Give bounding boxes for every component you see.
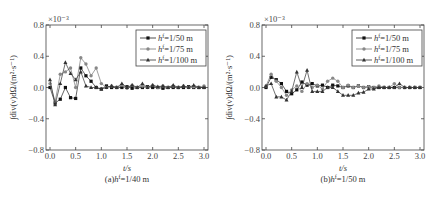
- y-tick-label: −0.8: [245, 145, 260, 155]
- legend-entry: hf=1/50 m: [374, 33, 409, 43]
- x-tick-label: 0.5: [70, 151, 81, 161]
- legend-entry: hf=1/100 m: [158, 55, 198, 65]
- x-axis-label: t/s: [123, 163, 132, 173]
- y-tick-label: −0.8: [29, 145, 44, 155]
- chart-figure: 0.80.40.0−0.4−0.80.00.51.01.52.02.53.0×1…: [0, 0, 437, 199]
- plot-b: 0.80.40.0−0.4−0.80.00.51.01.52.02.53.0×1…: [224, 14, 425, 184]
- y-tick-label: −0.4: [245, 114, 261, 124]
- y-multiplier: ×10⁻³: [48, 14, 69, 24]
- y-axis-label: ∫div(v)dΩ/(m²·s⁻¹): [224, 55, 235, 121]
- y-tick-label: 0.0: [249, 83, 260, 93]
- x-tick-label: 1.5: [122, 151, 133, 161]
- x-tick-label: 3.0: [415, 151, 426, 161]
- x-tick-label: 0.5: [286, 151, 297, 161]
- x-axis-label: t/s: [339, 163, 348, 173]
- x-tick-label: 0.0: [261, 151, 272, 161]
- legend-entry: hf=1/75 m: [158, 44, 193, 54]
- y-tick-label: 0.8: [249, 20, 260, 30]
- x-tick-label: 1.5: [338, 151, 349, 161]
- panel-caption: (a)hf=1/40 m: [105, 174, 150, 184]
- y-tick-label: 0.4: [249, 51, 260, 61]
- x-tick-label: 2.5: [389, 151, 400, 161]
- plot-a: 0.80.40.0−0.4−0.80.00.51.01.52.02.53.0×1…: [8, 14, 209, 184]
- x-tick-label: 2.0: [363, 151, 374, 161]
- series-line: [266, 74, 420, 95]
- panel-caption: (b)hf=1/50 m: [321, 174, 366, 184]
- x-tick-label: 1.0: [312, 151, 323, 161]
- y-multiplier: ×10⁻³: [264, 14, 285, 24]
- legend-entry: hf=1/100 m: [374, 55, 414, 65]
- legend-entry: hf=1/50 m: [158, 33, 193, 43]
- x-tick-label: 2.0: [147, 151, 158, 161]
- y-tick-label: 0.0: [33, 83, 44, 93]
- x-tick-label: 3.0: [199, 151, 210, 161]
- y-tick-label: −0.4: [29, 114, 45, 124]
- x-tick-label: 0.0: [45, 151, 56, 161]
- legend: hf=1/50 mhf=1/75 mhf=1/100 m: [352, 30, 422, 66]
- x-tick-label: 2.5: [173, 151, 184, 161]
- y-tick-label: 0.8: [33, 20, 44, 30]
- x-tick-label: 1.0: [96, 151, 107, 161]
- y-tick-label: 0.4: [33, 51, 44, 61]
- legend-entry: hf=1/75 m: [374, 44, 409, 54]
- legend: hf=1/50 mhf=1/75 mhf=1/100 m: [136, 30, 206, 66]
- y-axis-label: ∫div(v)dΩ/(m²·s⁻¹): [8, 55, 19, 121]
